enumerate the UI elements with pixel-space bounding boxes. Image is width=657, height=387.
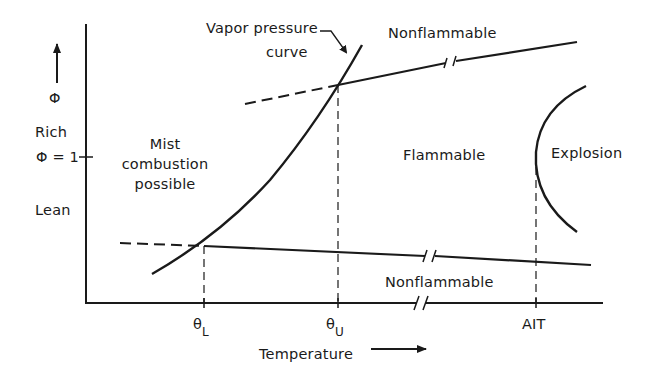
ait-label: AIT bbox=[522, 317, 546, 332]
phi-one-label: Φ = 1 bbox=[36, 150, 79, 165]
nonflammable-lower-label: Nonflammable bbox=[385, 275, 494, 290]
vapor-leader-arrow-icon bbox=[320, 31, 346, 52]
x-axis-break-icon bbox=[414, 296, 428, 310]
lower-limit-line bbox=[204, 246, 591, 265]
flammable-label: Flammable bbox=[403, 148, 485, 163]
vapor-pressure-label-line2: curve bbox=[266, 45, 308, 60]
upper-limit-line bbox=[338, 42, 577, 85]
lean-label: Lean bbox=[35, 203, 71, 218]
theta-u-label: θU bbox=[326, 317, 344, 332]
mist-label-line1: Mist bbox=[125, 137, 205, 152]
lower-limit-break-icon bbox=[423, 250, 436, 262]
upper-limit-break-icon bbox=[444, 56, 456, 68]
explosion-label: Explosion bbox=[551, 146, 622, 161]
temperature-axis-label: Temperature bbox=[259, 347, 353, 362]
phi-axis-symbol: Φ bbox=[49, 91, 61, 106]
upper-limit-extension bbox=[245, 85, 338, 104]
mist-label-line2: combustion bbox=[115, 157, 215, 172]
vapor-pressure-label-line1: Vapor pressure bbox=[206, 21, 318, 36]
rich-label: Rich bbox=[35, 125, 67, 140]
lower-limit-extension bbox=[120, 243, 204, 246]
theta-l-label: θL bbox=[193, 317, 209, 332]
nonflammable-upper-label: Nonflammable bbox=[388, 26, 497, 41]
mist-label-line3: possible bbox=[125, 177, 205, 192]
